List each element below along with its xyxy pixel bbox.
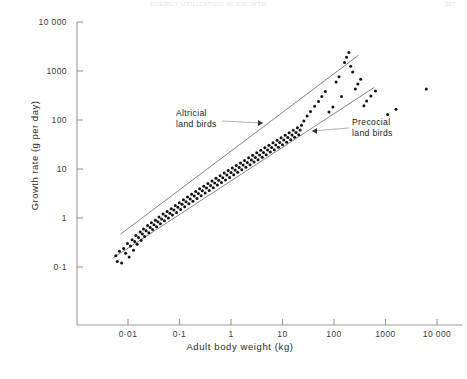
annotation-precocial-line2: land birds xyxy=(352,128,393,139)
data-point xyxy=(331,105,334,108)
data-point xyxy=(230,171,233,174)
data-point xyxy=(216,184,219,187)
data-point xyxy=(281,143,284,146)
data-point xyxy=(120,262,123,265)
data-point xyxy=(224,178,227,181)
data-point xyxy=(313,105,316,108)
data-point xyxy=(202,185,205,188)
data-point xyxy=(238,166,241,169)
annotation-altricial-land-birds: Altricial land birds xyxy=(176,108,217,130)
leader-line-altricial xyxy=(222,121,263,123)
data-point xyxy=(131,238,134,241)
data-point xyxy=(297,133,300,136)
data-point xyxy=(204,191,207,194)
data-point xyxy=(185,200,188,203)
data-point xyxy=(193,195,196,198)
data-point xyxy=(269,151,272,154)
y-tick-label: 10 000 xyxy=(0,17,67,27)
data-point xyxy=(153,223,156,226)
data-point xyxy=(320,95,323,98)
y-tick-label: 0·1 xyxy=(0,262,67,272)
data-point xyxy=(317,100,320,103)
data-point xyxy=(197,192,200,195)
data-point xyxy=(132,249,135,252)
data-point xyxy=(164,215,167,218)
data-point xyxy=(250,159,253,162)
data-point xyxy=(147,231,150,234)
data-point xyxy=(278,141,281,144)
data-point xyxy=(133,240,136,243)
data-point xyxy=(118,250,121,253)
data-point xyxy=(286,136,289,139)
data-point xyxy=(239,161,242,164)
data-point xyxy=(259,149,262,152)
data-point xyxy=(324,90,327,93)
data-point xyxy=(129,244,132,247)
data-point xyxy=(288,131,291,134)
data-point xyxy=(356,83,359,86)
data-point xyxy=(235,164,238,167)
data-point xyxy=(128,256,131,259)
data-point xyxy=(212,186,215,189)
data-point xyxy=(176,206,179,209)
data-point xyxy=(266,148,269,151)
data-point xyxy=(228,176,231,179)
plot-canvas xyxy=(0,0,467,379)
data-point xyxy=(343,61,346,64)
data-point xyxy=(163,219,166,222)
data-point xyxy=(142,227,145,230)
y-axis-title: Growth rate (g per day) xyxy=(29,76,40,236)
data-point xyxy=(167,217,170,220)
data-point xyxy=(276,139,279,142)
data-point xyxy=(155,225,158,228)
data-points-group xyxy=(114,51,428,265)
data-point xyxy=(208,189,211,192)
axes-group xyxy=(77,22,462,325)
data-point xyxy=(272,141,275,144)
scatter-plot-figure: 0·1110100100010 0000·010·1110100100010 0… xyxy=(0,0,467,379)
data-point xyxy=(328,111,331,114)
altricial-fit-line xyxy=(121,55,359,234)
data-point xyxy=(154,219,157,222)
data-point xyxy=(257,158,260,161)
data-point xyxy=(175,211,178,214)
data-point xyxy=(251,154,254,157)
data-point xyxy=(198,187,201,190)
annotation-altricial-line2: land birds xyxy=(176,119,217,130)
data-point xyxy=(273,148,276,151)
data-point xyxy=(354,88,357,91)
data-point xyxy=(365,99,368,102)
data-point xyxy=(262,151,265,154)
data-point xyxy=(374,90,377,93)
data-point xyxy=(265,153,268,156)
data-point xyxy=(255,151,258,154)
data-point xyxy=(274,143,277,146)
data-point xyxy=(213,181,216,184)
leader-line-precocial xyxy=(312,128,349,131)
data-point xyxy=(340,95,343,98)
precocial-fit-line xyxy=(113,88,374,258)
data-point xyxy=(369,94,372,97)
data-point xyxy=(267,144,270,147)
data-point xyxy=(270,146,273,149)
data-point xyxy=(386,113,389,116)
data-point xyxy=(227,169,230,172)
data-point xyxy=(345,56,348,59)
data-point xyxy=(134,234,137,237)
data-point xyxy=(220,181,223,184)
y-tick-label: 1000 xyxy=(0,66,67,76)
data-point xyxy=(425,88,428,91)
data-point xyxy=(182,198,185,201)
data-point xyxy=(162,213,165,216)
data-point xyxy=(349,65,352,68)
data-point xyxy=(254,156,257,159)
data-point xyxy=(234,169,237,172)
fit-lines-group xyxy=(113,55,374,257)
data-point xyxy=(299,128,302,131)
data-point xyxy=(211,180,214,183)
annotation-precocial-line1: Precocial xyxy=(352,117,393,128)
data-point xyxy=(295,131,298,134)
data-point xyxy=(217,179,220,182)
data-point xyxy=(122,247,125,250)
data-point xyxy=(186,195,189,198)
